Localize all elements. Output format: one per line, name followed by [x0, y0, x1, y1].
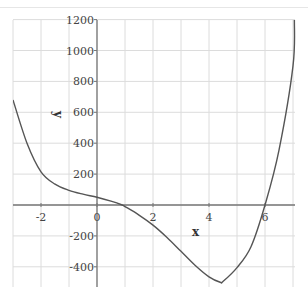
y-axis-label: y [51, 110, 65, 119]
grid-lines [13, 20, 295, 287]
y-tick-label: 1200 [66, 14, 94, 27]
x-tick-label: 4 [206, 211, 213, 224]
y-tick-label: 600 [73, 106, 94, 119]
y-tick-label: 800 [73, 75, 94, 88]
y-tick-label: -200 [69, 230, 94, 243]
y-tick-label: 1000 [66, 45, 94, 58]
y-tick-label: 200 [73, 168, 94, 181]
x-tick-label: -2 [36, 211, 47, 224]
x-axis-label: x [192, 225, 200, 239]
y-tick-label: 400 [73, 137, 94, 150]
data-curve [13, 20, 295, 283]
x-tick-label: 2 [150, 211, 157, 224]
axes [13, 20, 295, 287]
y-tick-label: -400 [69, 261, 94, 274]
x-tick-label: 0 [94, 211, 101, 224]
line-chart: -20246-400-20020040060080010001200 x y [0, 0, 308, 294]
